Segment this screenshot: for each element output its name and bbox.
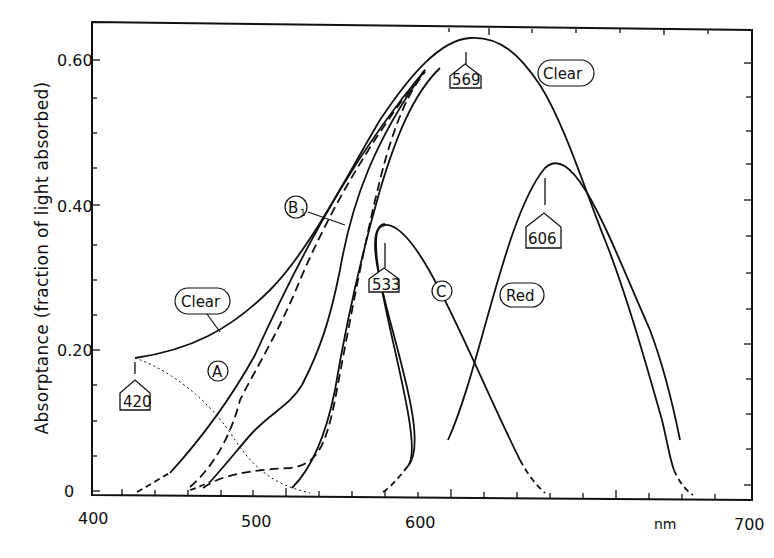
curves [135, 38, 693, 495]
label-clear-right: Clear [543, 65, 583, 83]
y-tick-0.40: 0.40 [57, 197, 93, 216]
tag-606: 606 [528, 230, 557, 248]
label-c: C [436, 283, 446, 301]
label-b1: B [288, 199, 298, 217]
label-b1-subscript: 1 [300, 208, 306, 218]
curve-c [376, 224, 412, 466]
curve-labels: Clear Clear A B 1 C Red [175, 60, 594, 381]
tag-569: 569 [452, 71, 481, 89]
y-tick-0.60: 0.60 [57, 51, 93, 70]
y-axis-ticks [92, 60, 752, 491]
curve-red [448, 163, 680, 440]
curve-clear [135, 38, 674, 470]
x-tick-600: 600 [405, 513, 436, 532]
curve-c-shape [375, 225, 520, 466]
tag-533: 533 [372, 276, 401, 294]
x-unit-label: nm [654, 516, 677, 532]
absorptance-chart: 0.60 0.40 0.20 0 400 500 600 nm 700 [0, 0, 774, 558]
y-tick-0.20: 0.20 [57, 341, 93, 360]
x-tick-400: 400 [78, 509, 109, 528]
x-axis-ticks [122, 28, 715, 500]
x-tick-500: 500 [241, 512, 272, 531]
curve-solid-steep [292, 68, 440, 488]
label-clear-left: Clear [181, 293, 221, 311]
plot-frame [92, 22, 752, 500]
y-tick-0: 0 [64, 482, 74, 501]
label-a: A [212, 363, 223, 381]
x-tick-700: 700 [734, 515, 765, 534]
tag-420: 420 [123, 393, 152, 411]
label-red: Red [506, 287, 535, 305]
